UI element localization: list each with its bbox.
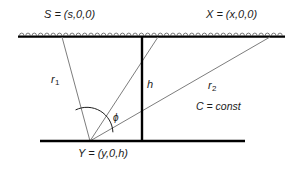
label-source-point: S = (s,0,0) [44, 9, 95, 20]
label-ray-r1-subscript: 1 [55, 78, 60, 87]
label-scatterer-point: Y = (y,0,h) [78, 148, 128, 159]
surface-hatch-marks [20, 33, 283, 35]
label-receiver-point: X = (x,0,0) [206, 9, 257, 20]
geometry-diagram: S = (s,0,0) X = (x,0,0) r1 r2 h ϕ C = co… [0, 0, 295, 170]
surface-hatching-group [18, 33, 285, 37]
label-ray-r1: r1 [51, 74, 59, 87]
label-ray-r2-subscript: 2 [212, 84, 217, 93]
label-velocity-constant: C = const [196, 101, 241, 112]
ray-r2-line [90, 37, 270, 141]
ray-r1-line [62, 37, 90, 141]
label-depth-h: h [147, 79, 153, 90]
label-angle-phi: ϕ [113, 113, 119, 123]
label-ray-r2: r2 [208, 80, 216, 93]
